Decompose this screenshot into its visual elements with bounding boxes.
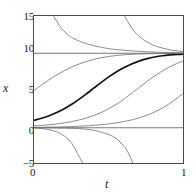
solution-curve-solution-x0-1 xyxy=(34,54,184,120)
y-axis-label: x xyxy=(3,82,8,94)
logistic-solution-curves-figure: 15 10 5 0 −5 0 1 x t xyxy=(0,0,196,193)
plot-frame xyxy=(33,15,184,164)
x-tick-label-1: 1 xyxy=(181,167,187,178)
solution-curve-solution-diverging-below-zero-early xyxy=(34,128,84,164)
solution-curve-solution-x0-0p05 xyxy=(34,92,184,128)
solution-curve-solution-decaying-from-15-late xyxy=(125,16,184,52)
solution-curve-solution-diverging-below-zero-late xyxy=(34,128,134,164)
solution-curve-solution-decaying-from-15-early xyxy=(54,16,184,53)
x-tick-label-0: 0 xyxy=(30,167,36,178)
solution-curve-solution-x0-0p25 xyxy=(34,60,184,126)
solution-curves-canvas xyxy=(34,16,184,164)
x-axis-label: t xyxy=(105,178,108,190)
